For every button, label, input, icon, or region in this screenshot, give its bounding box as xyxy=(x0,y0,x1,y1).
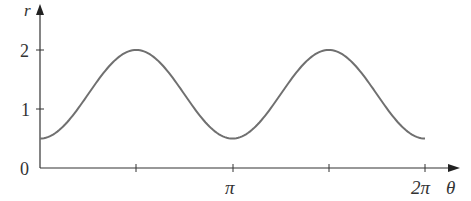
series-curve xyxy=(40,50,425,139)
y-tick-label-2: 2 xyxy=(20,41,29,61)
y-axis-label: r xyxy=(24,1,31,20)
x-tick-label-two-pi: 2π xyxy=(411,177,431,198)
y-tick-label-0: 0 xyxy=(20,159,29,179)
y-axis-arrow-icon xyxy=(36,4,44,15)
chart: 0 1 2 π 2π r θ xyxy=(0,0,471,201)
y-tick-label-1: 1 xyxy=(21,100,30,120)
x-tick-label-pi: π xyxy=(225,177,235,198)
x-axis-arrow-icon xyxy=(448,164,460,172)
x-axis-label: θ xyxy=(446,177,455,198)
